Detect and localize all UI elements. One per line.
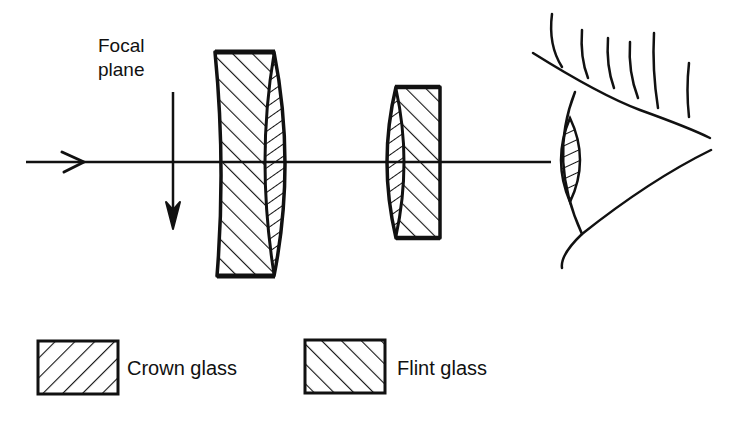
legend-label-crown: Crown glass [127, 357, 237, 380]
lower-eyelid [562, 150, 711, 268]
eye-lens-doublet [387, 87, 440, 238]
focal-plane-arrow [166, 92, 180, 229]
eyelash [551, 14, 562, 67]
focal-plane-label-line1: Focal [98, 34, 145, 58]
upper-eyelid [533, 53, 710, 138]
focal-plane-label-line2: plane [98, 58, 145, 82]
eyelash [630, 42, 638, 98]
focal-plane-label: Focal plane [98, 34, 145, 82]
observer-eye [533, 14, 711, 268]
eyelash [654, 33, 659, 108]
eyelash [688, 63, 690, 117]
eyelash [582, 30, 588, 78]
field-lens-doublet [215, 52, 285, 276]
legend-swatch-crown [38, 341, 118, 394]
legend-label-flint: Flint glass [397, 357, 487, 380]
legend-swatch-flint [305, 340, 385, 393]
eyelash [608, 38, 614, 88]
optical-axis [26, 152, 551, 172]
